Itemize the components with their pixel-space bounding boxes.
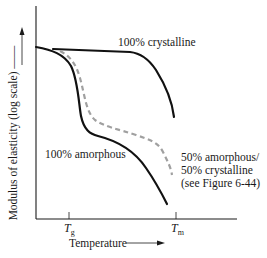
x-axis-label: Temperature: [69, 237, 127, 250]
label-100-crystalline: 100% crystalline: [118, 36, 196, 49]
tg-sub: g: [71, 228, 75, 237]
tm-main: T: [171, 221, 178, 235]
label-50-50-line3: (see Figure 6-44): [181, 177, 260, 190]
curve-100-crystalline: [53, 49, 174, 117]
curve-100-amorphous: [36, 47, 167, 204]
tg-main: T: [64, 221, 71, 235]
label-50-50-line1: 50% amorphous/: [181, 151, 259, 164]
y-axis-arrow: [20, 27, 25, 65]
tick-label-tm: Tm: [171, 222, 184, 239]
label-100-amorphous: 100% amorphous: [45, 148, 126, 161]
y-axis-label: Modulus of elasticity (log scale) ——: [6, 0, 20, 258]
y-axis-label-text: Modulus of elasticity (log scale) ——: [7, 46, 19, 221]
tm-sub: m: [178, 228, 184, 237]
x-axis-arrow: [126, 241, 165, 246]
label-50-50-line2: 50% crystalline: [181, 164, 253, 177]
